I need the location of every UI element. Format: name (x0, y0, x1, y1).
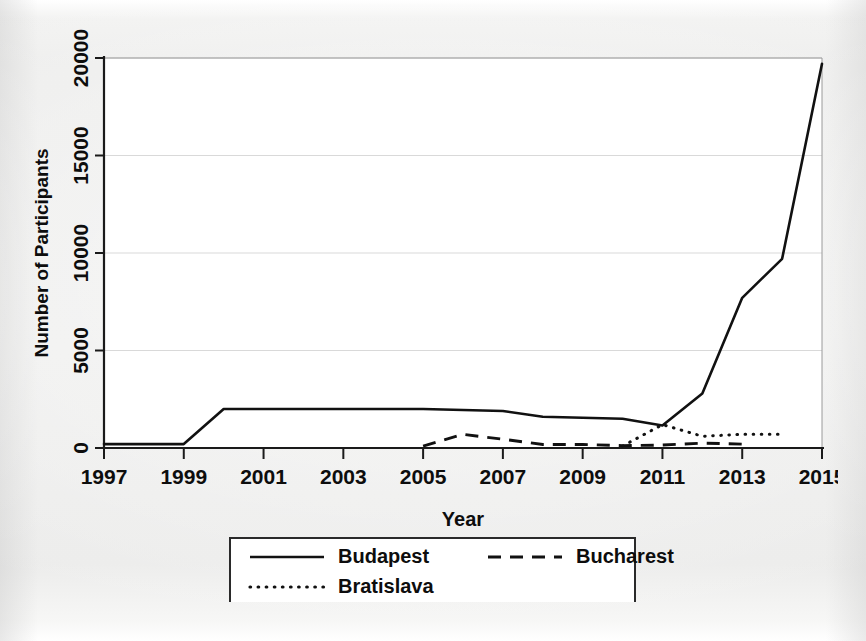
x-axis-ticks: 1997199920012003200520072009201120132015 (81, 448, 838, 488)
chart-legend: BudapestBucharestBratislava (230, 538, 674, 602)
x-tick-label: 2007 (480, 465, 527, 488)
y-tick-label: 10000 (69, 224, 92, 282)
y-tick-label: 5000 (69, 327, 92, 374)
y-tick-label: 20000 (69, 29, 92, 87)
x-tick-label: 2001 (240, 465, 287, 488)
x-axis-label: Year (442, 508, 484, 530)
chart-figure: 05000100001500020000 1997199920012003200… (18, 14, 838, 602)
x-tick-label: 2005 (400, 465, 447, 488)
page-root: 05000100001500020000 1997199920012003200… (0, 0, 866, 641)
x-tick-label: 2011 (640, 465, 686, 488)
y-axis-label: Number of Participants (31, 148, 52, 357)
legend-label-budapest: Budapest (338, 545, 429, 567)
line-chart: 05000100001500020000 1997199920012003200… (18, 14, 838, 602)
x-tick-label: 2015 (799, 465, 838, 488)
x-tick-label: 2009 (559, 465, 606, 488)
y-tick-label: 0 (69, 442, 92, 454)
y-tick-label: 15000 (69, 126, 92, 184)
legend-label-bucharest: Bucharest (576, 545, 674, 567)
y-axis-ticks: 05000100001500020000 (69, 29, 104, 454)
x-tick-label: 1997 (81, 465, 128, 488)
x-tick-label: 1999 (160, 465, 207, 488)
legend-label-bratislava: Bratislava (338, 575, 434, 597)
x-tick-label: 2013 (719, 465, 766, 488)
x-tick-label: 2003 (320, 465, 367, 488)
